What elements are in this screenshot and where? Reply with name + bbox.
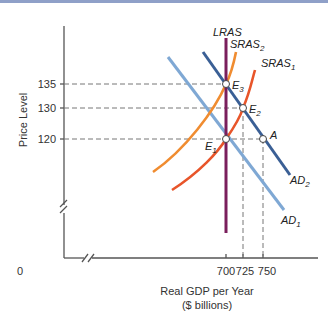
x-tick-725: 725 — [236, 265, 254, 277]
point-e2 — [240, 105, 247, 112]
x-tick-750: 750 — [258, 265, 276, 277]
as-ad-chart: 135 130 120 0 700 725 750 Real GDP per Y… — [0, 0, 328, 322]
e1-label: E1 — [205, 140, 217, 155]
origin-label: 0 — [17, 265, 23, 277]
y-tick-120: 120 — [38, 133, 56, 145]
point-e3 — [223, 81, 230, 88]
y-tick-135: 135 — [38, 78, 56, 90]
x-axis-label-line2: ($ billions) — [182, 299, 232, 311]
a-label: A — [269, 129, 277, 141]
sras1-label: SRAS1 — [261, 57, 295, 72]
point-a — [260, 136, 267, 143]
e2-label: E2 — [249, 103, 261, 118]
ad1-label: AD1 — [280, 214, 301, 229]
e3-label: E3 — [232, 79, 244, 94]
ad2-curve — [203, 52, 290, 175]
ad2-label: AD2 — [289, 174, 310, 189]
y-tick-130: 130 — [38, 102, 56, 114]
sras2-curve — [153, 52, 236, 172]
y-axis-label: Price Level — [17, 93, 29, 147]
x-tick-700: 700 — [217, 265, 235, 277]
lras-label: LRAS — [213, 26, 242, 38]
sras2-label: SRAS2 — [230, 38, 265, 53]
point-e1 — [223, 136, 230, 143]
x-axis-label-line1: Real GDP per Year — [160, 285, 254, 297]
guide-lines — [64, 84, 263, 256]
